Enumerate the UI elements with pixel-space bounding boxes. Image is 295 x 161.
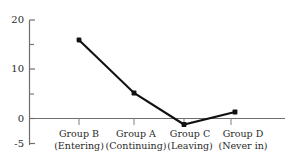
x-axis-label-group-d: Group D (Never in)	[218, 128, 267, 151]
data-point-group-a	[132, 91, 137, 96]
y-axis-label-minus-5: -5	[2, 139, 24, 149]
y-axis-label-10: 10	[2, 64, 24, 74]
x-axis-label-group-a: Group A (Continuing)	[106, 128, 167, 151]
x-axis-label-group-b: Group B (Entering)	[54, 128, 104, 151]
y-axis-label-20: 20	[2, 15, 24, 25]
x-axis-label-group-d-name: Group D	[223, 128, 264, 139]
line-chart: 20 10 0 -5 Group B (Entering) Group A (C…	[0, 0, 295, 161]
data-series-line	[79, 40, 235, 125]
data-point-group-b	[77, 38, 82, 43]
x-axis-label-group-d-sub: (Never in)	[218, 140, 267, 152]
y-axis-major-ticks	[30, 20, 36, 144]
x-axis-label-group-b-name: Group B	[59, 128, 99, 139]
x-axis-label-group-a-sub: (Continuing)	[106, 140, 167, 152]
y-axis-label-0: 0	[2, 114, 24, 124]
x-axis-label-group-a-name: Group A	[116, 128, 156, 139]
data-point-markers	[77, 38, 238, 127]
data-point-group-d	[233, 110, 238, 115]
data-point-group-c	[182, 122, 187, 127]
x-axis-label-group-b-sub: (Entering)	[54, 140, 104, 152]
x-axis-label-group-c-name: Group C	[170, 128, 210, 139]
x-axis-label-group-c: Group C (Leaving)	[167, 128, 213, 151]
x-axis-label-group-c-sub: (Leaving)	[167, 140, 213, 152]
